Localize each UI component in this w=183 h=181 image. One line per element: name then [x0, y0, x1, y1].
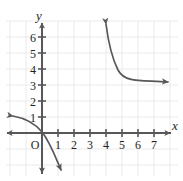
- x-tick-label-4: 4: [103, 138, 109, 152]
- x-tick-label-3: 3: [87, 138, 93, 152]
- y-axis-label: y: [34, 8, 42, 23]
- x-tick-label-7: 7: [151, 138, 157, 152]
- y-tick-label-3: 3: [30, 79, 36, 93]
- coordinate-plane-graph: y x O 1 2 3 4 5 6 7 1 2 3 4 5 6: [0, 0, 183, 181]
- x-tick-label-2: 2: [71, 138, 77, 152]
- graph-svg: y x O 1 2 3 4 5 6 7 1 2 3 4 5 6: [0, 0, 183, 181]
- y-tick-label-2: 2: [30, 95, 36, 109]
- x-axis-label: x: [171, 118, 178, 133]
- origin-label: O: [31, 138, 40, 152]
- x-tick-label-6: 6: [135, 138, 141, 152]
- y-tick-label-6: 6: [30, 31, 36, 45]
- y-tick-label-1: 1: [30, 111, 36, 125]
- y-tick-label-4: 4: [30, 63, 36, 77]
- y-tick-label-5: 5: [30, 47, 36, 61]
- x-tick-label-5: 5: [119, 138, 125, 152]
- x-tick-label-1: 1: [55, 138, 61, 152]
